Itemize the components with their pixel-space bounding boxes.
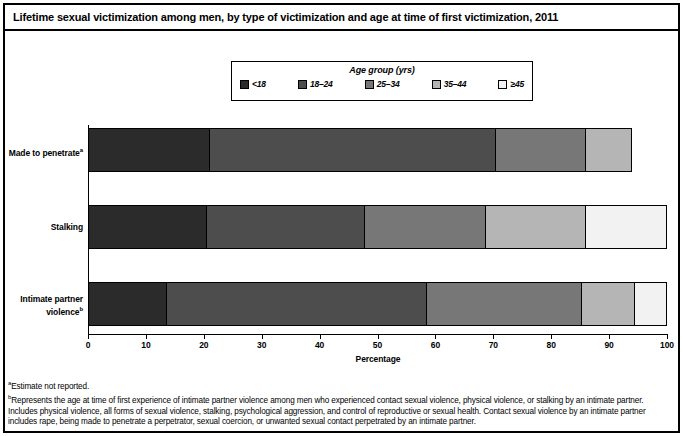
x-axis-tick-label: 70 [489, 340, 498, 350]
legend-item-18-24: 18–24 [298, 79, 333, 89]
bar-segment [365, 205, 487, 249]
legend-title: Age group (yrs) [232, 65, 532, 75]
legend-label-lt18: <18 [252, 79, 266, 89]
x-axis-tick-label: 100 [660, 340, 674, 350]
legend-swatch-icon-ge45 [498, 80, 507, 89]
x-axis-tick [609, 334, 610, 339]
bar-segment [586, 128, 632, 172]
footnote-b-text: Represents the age at time of first expe… [8, 396, 646, 426]
x-axis-tick-label: 60 [431, 340, 440, 350]
footnote-b: bRepresents the age at time of first exp… [8, 392, 672, 428]
figure-container: Lifetime sexual victimization among men,… [0, 0, 683, 436]
y-axis-label: Intimate partnerviolenceb [0, 294, 83, 317]
legend-swatch-icon-18-24 [298, 80, 307, 89]
footnote-a-text: Estimate not reported. [11, 382, 89, 391]
legend-label-25-34: 25–34 [377, 79, 400, 89]
x-axis-tick-label: 80 [547, 340, 556, 350]
x-axis-tick-label: 0 [86, 340, 91, 350]
x-axis-tick [204, 334, 205, 339]
legend-items: <18 18–24 25–34 35–44 ≥45 [232, 75, 532, 89]
plot-wrapper: Age group (yrs) <18 18–24 25–34 35–44 [0, 31, 683, 341]
y-axis-label-footnote-marker: a [80, 147, 83, 153]
x-axis-tick-label: 20 [199, 340, 208, 350]
legend-item-35-44: 35–44 [432, 79, 467, 89]
bar-row [88, 205, 667, 249]
chart-plot-area: Made to penetrateaStalkingIntimate partn… [88, 125, 667, 334]
legend-item-25-34: 25–34 [365, 79, 400, 89]
bar-segment [88, 205, 207, 249]
legend-label-35-44: 35–44 [444, 79, 467, 89]
legend-swatch-icon-lt18 [240, 80, 249, 89]
legend-item-lt18: <18 [240, 79, 266, 89]
x-axis-tick [320, 334, 321, 339]
bar-segment [167, 282, 426, 326]
x-axis-tick [378, 334, 379, 339]
footnotes: aEstimate not reported. bRepresents the … [8, 378, 672, 428]
x-axis-tick [88, 334, 89, 339]
bar-segment [427, 282, 582, 326]
x-axis-title: Percentage [88, 354, 668, 364]
legend-swatch-icon-35-44 [432, 80, 441, 89]
bar-segment [210, 128, 497, 172]
y-axis-label: Stalking [0, 222, 83, 232]
bar-segment [496, 128, 586, 172]
chart-legend: Age group (yrs) <18 18–24 25–34 35–44 [231, 61, 533, 101]
legend-label-18-24: 18–24 [310, 79, 333, 89]
bar-row [88, 128, 632, 172]
footnote-a: aEstimate not reported. [8, 378, 672, 392]
x-axis-tick-label: 90 [604, 340, 613, 350]
x-axis-tick-label: 30 [257, 340, 266, 350]
x-axis-tick [493, 334, 494, 339]
bar-segment [635, 282, 667, 326]
bar-row [88, 282, 667, 326]
x-axis-tick-label: 50 [373, 340, 382, 350]
legend-swatch-icon-25-34 [365, 80, 374, 89]
y-axis-label-footnote-marker: b [79, 306, 83, 312]
bar-segment [88, 282, 167, 326]
x-axis-tick [667, 334, 668, 339]
page-title: Lifetime sexual victimization among men,… [5, 11, 558, 23]
bar-segment [207, 205, 365, 249]
bar-segment [88, 128, 210, 172]
legend-item-ge45: ≥45 [498, 79, 524, 89]
legend-label-ge45: ≥45 [510, 79, 524, 89]
x-axis-tick-label: 10 [141, 340, 150, 350]
y-axis-label: Made to penetratea [0, 145, 83, 158]
x-axis-tick-label: 40 [315, 340, 324, 350]
bar-segment [486, 205, 586, 249]
x-axis-tick [551, 334, 552, 339]
x-axis-tick [435, 334, 436, 339]
bar-segment [586, 205, 667, 249]
x-axis-tick [146, 334, 147, 339]
bar-segment [582, 282, 635, 326]
title-band: Lifetime sexual victimization among men,… [5, 5, 678, 31]
x-axis-tick [262, 334, 263, 339]
